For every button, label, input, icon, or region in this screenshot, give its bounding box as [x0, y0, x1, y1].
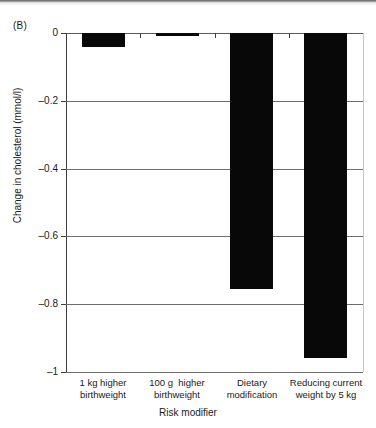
figure-panel: (B) 0–0.2–0.4–0.6–0.8–1 1 kg higher birt… — [0, 0, 376, 428]
y-axis-tick-mark — [61, 236, 66, 237]
x-axis-tick-mark — [215, 33, 216, 38]
x-axis-label: Risk modifier — [0, 407, 376, 418]
bar — [230, 33, 273, 289]
scan-artifact-band-secondary — [0, 3, 376, 5]
y-axis-tick-label: –0.8 — [14, 298, 58, 309]
bar — [304, 33, 347, 358]
x-axis-category-label: 100 g higher birthweight — [140, 377, 214, 400]
x-axis-category-label: Dietary modification — [215, 377, 289, 400]
gridline — [66, 372, 363, 373]
x-axis-category-label: 1 kg higher birthweight — [66, 377, 140, 400]
y-axis-tick-mark — [61, 33, 66, 34]
x-axis-category-label: Reducing current weight by 5 kg — [289, 377, 363, 400]
plot-right-border — [363, 33, 364, 372]
y-axis-tick-label: –1 — [14, 366, 58, 377]
y-axis-tick-mark — [61, 372, 66, 373]
bar — [82, 33, 125, 47]
x-axis-tick-mark — [140, 33, 141, 38]
y-axis-tick-mark — [61, 101, 66, 102]
y-axis-label: Change in cholesterol (mmol/l) — [12, 61, 23, 251]
x-axis-tick-mark — [289, 33, 290, 38]
y-axis-tick-mark — [61, 169, 66, 170]
bar — [156, 33, 199, 36]
y-axis-line — [66, 33, 67, 372]
y-axis-tick-mark — [61, 304, 66, 305]
y-axis-tick-label: 0 — [14, 27, 58, 38]
